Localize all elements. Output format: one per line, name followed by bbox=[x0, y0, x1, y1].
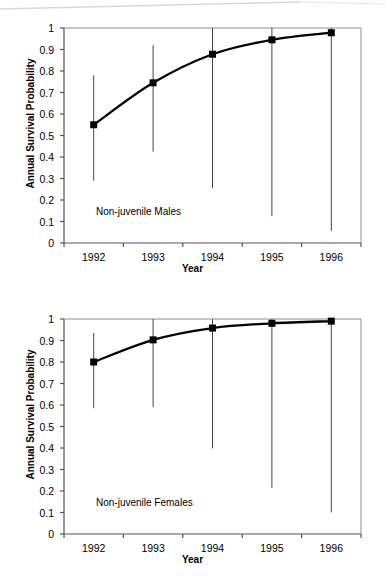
y-tick-label-males-5: 0.5 bbox=[18, 130, 54, 142]
x-tick-label-females-2: 1994 bbox=[183, 542, 243, 554]
data-marker-females-1995 bbox=[268, 320, 275, 327]
y-tick-label-males-1: 0.1 bbox=[18, 216, 54, 228]
x-tick-label-males-4: 1996 bbox=[301, 251, 361, 263]
x-tick-label-males-3: 1995 bbox=[242, 251, 302, 263]
data-marker-males-1994 bbox=[209, 51, 216, 58]
chart-panel-males: Annual Survival Probability Year Non-juv… bbox=[0, 0, 385, 291]
x-tick-label-females-0: 1992 bbox=[64, 542, 124, 554]
chart-panel-females: Annual Survival Probability Year Non-juv… bbox=[0, 291, 385, 582]
y-tick-label-males-6: 0.6 bbox=[18, 108, 54, 120]
data-marker-females-1994 bbox=[209, 325, 216, 332]
x-tick-label-males-0: 1992 bbox=[64, 251, 124, 263]
y-tick-label-males-2: 0.2 bbox=[18, 194, 54, 206]
data-marker-females-1996 bbox=[328, 318, 335, 325]
y-tick-label-females-2: 0.2 bbox=[18, 485, 54, 497]
y-tick-label-males-3: 0.3 bbox=[18, 173, 54, 185]
y-tick-label-males-8: 0.8 bbox=[18, 65, 54, 77]
y-tick-label-males-7: 0.7 bbox=[18, 87, 54, 99]
x-tick-label-females-4: 1996 bbox=[301, 542, 361, 554]
y-tick-label-females-3: 0.3 bbox=[18, 464, 54, 476]
y-tick-label-females-5: 0.5 bbox=[18, 421, 54, 433]
x-tick-label-females-3: 1995 bbox=[242, 542, 302, 554]
y-tick-label-males-9: 0.9 bbox=[18, 44, 54, 56]
data-marker-males-1992 bbox=[90, 121, 97, 128]
y-tick-label-females-10: 1 bbox=[18, 313, 54, 325]
y-tick-label-females-4: 0.4 bbox=[18, 442, 54, 454]
x-tick-label-females-1: 1993 bbox=[123, 542, 183, 554]
y-tick-label-females-7: 0.7 bbox=[18, 378, 54, 390]
y-tick-label-males-10: 1 bbox=[18, 22, 54, 34]
y-tick-label-females-9: 0.9 bbox=[18, 335, 54, 347]
x-tick-label-males-1: 1993 bbox=[123, 251, 183, 263]
y-tick-label-females-6: 0.6 bbox=[18, 399, 54, 411]
data-marker-males-1995 bbox=[268, 36, 275, 43]
y-tick-label-males-4: 0.4 bbox=[18, 151, 54, 163]
plot-area-males bbox=[0, 0, 385, 291]
y-tick-label-females-0: 0 bbox=[18, 528, 54, 540]
data-marker-males-1993 bbox=[150, 79, 157, 86]
x-tick-label-males-2: 1994 bbox=[183, 251, 243, 263]
y-tick-label-females-8: 0.8 bbox=[18, 356, 54, 368]
data-marker-females-1993 bbox=[150, 336, 157, 343]
data-marker-females-1992 bbox=[90, 359, 97, 366]
data-marker-males-1996 bbox=[328, 29, 335, 36]
plot-area-females bbox=[0, 291, 385, 582]
y-tick-label-males-0: 0 bbox=[18, 237, 54, 249]
y-tick-label-females-1: 0.1 bbox=[18, 507, 54, 519]
